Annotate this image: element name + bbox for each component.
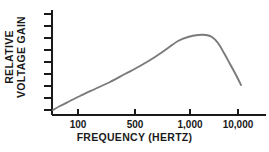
x-tick-label-3: 10,000: [223, 119, 254, 130]
y-axis-title-line-2: VOLTAGE GAIN: [16, 9, 28, 105]
x-axis-title: FREQUENCY (HERTZ): [0, 131, 269, 143]
gain-response-curve: [53, 35, 241, 110]
data-curve-group: [53, 35, 241, 110]
x-tick-label-0: 100: [70, 119, 87, 130]
x-tick-label-2: 1,000: [177, 119, 202, 130]
axes-group: [52, 10, 266, 115]
y-axis-title: RELATIVE VOLTAGE GAIN: [4, 9, 38, 105]
relative-voltage-gain-chart: 1005001,00010,000 FREQUENCY (HERTZ) RELA…: [0, 0, 269, 152]
x-tick-label-1: 500: [127, 119, 144, 130]
y-axis-title-line-1: RELATIVE: [4, 9, 16, 105]
